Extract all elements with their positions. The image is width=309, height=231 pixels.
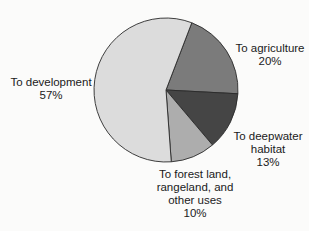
label-forest-value: 10% [155,207,235,220]
label-development: To development 57% [8,76,94,102]
label-forest-name-2: rangeland, and [155,181,235,194]
label-forest-name-3: other uses [155,194,235,207]
label-agriculture: To agriculture 20% [232,42,308,68]
label-deepwater: To deepwater habitat 13% [228,130,308,169]
label-deepwater-value: 13% [228,156,308,169]
label-forest-name-1: To forest land, [155,168,235,181]
label-deepwater-name-1: To deepwater [228,130,308,143]
label-development-name: To development [8,76,94,89]
label-agriculture-value: 20% [232,55,308,68]
label-deepwater-name-2: habitat [228,143,308,156]
label-development-value: 57% [8,89,94,102]
label-forest: To forest land, rangeland, and other use… [155,168,235,220]
label-agriculture-name: To agriculture [232,42,308,55]
